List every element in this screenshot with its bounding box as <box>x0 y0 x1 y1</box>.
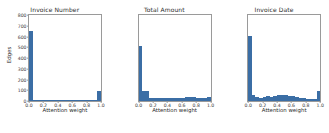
x-axis-label: Attention weight <box>28 107 102 113</box>
bar-series <box>248 15 320 101</box>
x-axis-label: Attention weight <box>138 107 212 113</box>
panel-title: Invoice Number <box>0 6 110 13</box>
y-tick-mark <box>27 15 29 16</box>
histogram-bar <box>317 91 321 101</box>
y-tick-mark <box>27 79 29 80</box>
chart-panel-1: Invoice NumberEdges0.00.20.40.60.81.0010… <box>0 0 110 133</box>
plot-area: 0.00.20.40.60.81.0 <box>138 14 212 102</box>
histogram-bar <box>97 91 101 101</box>
y-tick-mark <box>27 58 29 59</box>
attention-weight-histograms-figure: Invoice NumberEdges0.00.20.40.60.81.0010… <box>0 0 329 133</box>
y-tick-mark <box>27 90 29 91</box>
x-axis-label: Attention weight <box>247 107 321 113</box>
y-tick-mark <box>27 47 29 48</box>
y-axis-label: Edges <box>6 35 12 75</box>
y-tick-label: 700 <box>18 23 27 28</box>
y-tick-label: 400 <box>18 56 27 61</box>
y-tick-label: 200 <box>18 77 27 82</box>
y-tick-label: 800 <box>18 13 27 18</box>
y-tick-mark <box>27 36 29 37</box>
plot-area: 0.00.20.40.60.81.0 <box>247 14 321 102</box>
panel-title: Invoice Date <box>219 6 329 13</box>
chart-panel-2: Total Amount0.00.20.40.60.81.0Attention … <box>110 0 220 133</box>
panel-title: Total Amount <box>110 6 220 13</box>
y-tick-label: 0 <box>24 99 27 104</box>
y-tick-label: 500 <box>18 45 27 50</box>
bar-series <box>29 15 101 101</box>
histogram-bar <box>29 31 33 101</box>
plot-area: 0.00.20.40.60.81.00100200300400500600700… <box>28 14 102 102</box>
chart-panel-3: Invoice Date0.00.20.40.60.81.0Attention … <box>219 0 329 133</box>
y-tick-mark <box>27 68 29 69</box>
y-tick-label: 600 <box>18 34 27 39</box>
histogram-bar <box>248 36 252 101</box>
y-tick-mark <box>27 101 29 102</box>
bar-series <box>139 15 211 101</box>
y-tick-label: 300 <box>18 66 27 71</box>
y-tick-label: 100 <box>18 88 27 93</box>
y-tick-mark <box>27 25 29 26</box>
